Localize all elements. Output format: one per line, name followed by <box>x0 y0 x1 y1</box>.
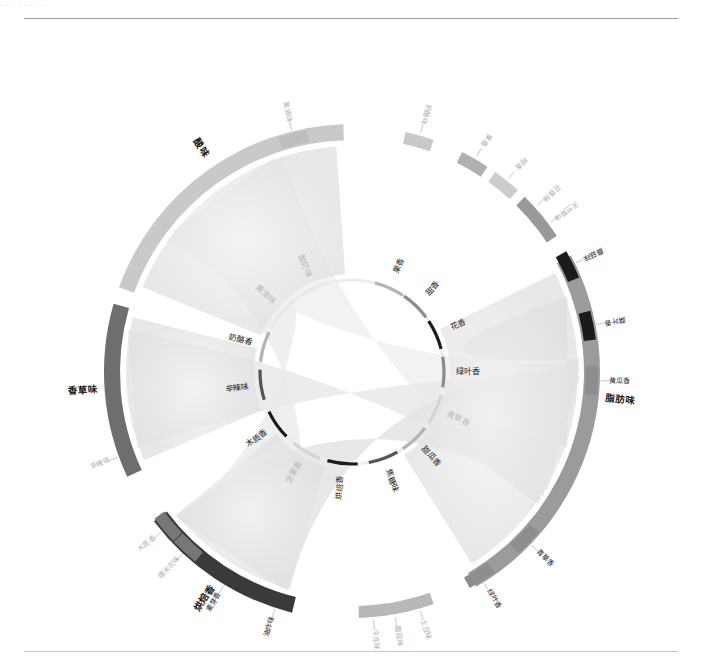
outer-segment-label: 绿叶香 <box>485 588 504 611</box>
outer-segment-label: 黄瓜香 <box>609 376 630 386</box>
outer-segment[interactable] <box>457 152 488 177</box>
leader-line <box>110 457 118 460</box>
inner-ring-segment[interactable] <box>375 281 404 296</box>
leader-line <box>537 199 544 205</box>
outer-segment-label: 木质香 <box>135 534 157 554</box>
leader-line <box>509 171 515 178</box>
leader-line <box>531 545 537 551</box>
outer-segment-label: 柑香 <box>513 156 529 173</box>
inner-ring-segment[interactable] <box>403 295 427 318</box>
leader-line <box>219 585 224 593</box>
outer-segment-label: 蘑菇味 <box>582 246 605 263</box>
inner-node-label: 绿叶香 <box>456 366 480 376</box>
outer-segment-label: 果香 <box>479 132 494 149</box>
leader-line <box>290 122 292 131</box>
group-label: 脂肪味 <box>604 392 636 406</box>
outer-segment-label: 辛辣味 <box>89 455 112 471</box>
chord-diagram: 果香甜香花香绿叶香青草香甜瓜香焦糖味烘焙香坚果香木质香辛辣味奶酪香黄油味酸奶味酸… <box>0 0 702 670</box>
inner-node-label: 焦糖味 <box>384 468 402 494</box>
leader-line <box>154 532 161 538</box>
inner-node-label: 甜香 <box>423 279 441 297</box>
ribbons-layer <box>126 147 580 591</box>
outer-segment-label: 土豆味 <box>419 618 433 641</box>
leader-line <box>272 609 275 618</box>
outer-segment-label: 花香味 <box>541 183 563 204</box>
outer-segment[interactable] <box>530 213 557 243</box>
outer-segment-label: 爆米花味 <box>156 554 182 581</box>
leader-line <box>596 323 605 325</box>
inner-node-label: 果香 <box>391 256 407 275</box>
outer-segment-label: 油炸味 <box>261 615 276 638</box>
outer-segment[interactable] <box>359 603 388 617</box>
inner-ring-segment[interactable] <box>259 332 270 362</box>
outer-segment-label: 青草香 <box>535 547 556 568</box>
figure-page: · · · · · · · · 果香甜香花香绿叶香青草香甜瓜香焦糖味烘焙香坚果香… <box>0 0 702 670</box>
leader-line <box>576 259 584 263</box>
outer-segment[interactable] <box>585 366 598 395</box>
group-label: 酸味 <box>192 136 212 159</box>
outer-segment[interactable] <box>488 172 518 199</box>
outer-segment-label: 腐叶香 <box>604 315 626 328</box>
inner-ring-segment[interactable] <box>427 320 442 349</box>
leader-line <box>421 124 423 133</box>
outer-segment-label: 奶酪味 <box>419 103 433 126</box>
inner-ring-segment[interactable] <box>368 451 398 464</box>
outer-segment-label: 蘑菇味 <box>393 625 406 647</box>
outer-segment-label: 天竺葵味 <box>552 199 580 223</box>
outer-segment-label: 黄油味 <box>281 101 295 124</box>
leader-line <box>421 611 423 620</box>
outer-segment-label: 冷冻味 <box>371 628 382 650</box>
chord-svg: 果香甜香花香绿叶香青草香甜瓜香焦糖味烘焙香坚果香木质香辛辣味奶酪香黄油味酸奶味酸… <box>0 0 702 670</box>
leader-line <box>477 149 482 157</box>
outer-segment[interactable] <box>403 132 434 151</box>
group-label: 香草味 <box>66 383 98 396</box>
leader-line <box>484 583 489 591</box>
